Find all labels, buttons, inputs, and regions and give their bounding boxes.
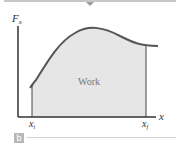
x-start-label: xi xyxy=(28,118,35,130)
area-label: Work xyxy=(78,76,100,87)
y-axis-label: Fx xyxy=(11,12,23,26)
work-diagram: Fx Work x xi xf xyxy=(0,0,178,149)
x-end-label: xf xyxy=(141,118,149,130)
bottom-divider xyxy=(26,137,176,138)
x-axis-label: x xyxy=(158,110,164,122)
panel-label: b xyxy=(14,133,24,143)
